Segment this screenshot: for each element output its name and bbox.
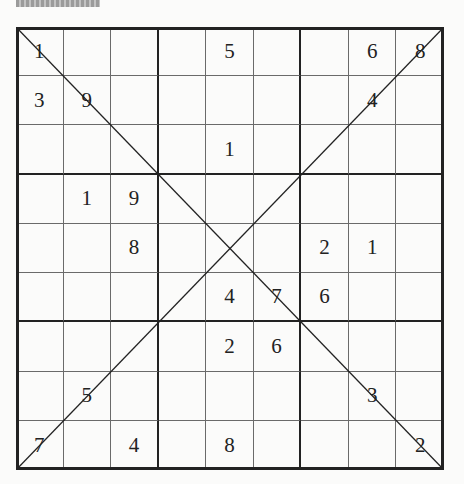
sudoku-cell-r8c1[interactable] bbox=[16, 372, 64, 421]
sudoku-cell-r1c2[interactable] bbox=[64, 27, 112, 76]
sudoku-cell-r7c1[interactable] bbox=[16, 322, 64, 371]
sudoku-cell-r1c6[interactable] bbox=[254, 27, 302, 76]
sudoku-cell-r8c3[interactable] bbox=[111, 372, 159, 421]
sudoku-board: 156839411982147626537482 bbox=[16, 27, 444, 470]
sudoku-cell-r9c7[interactable] bbox=[301, 421, 349, 470]
sudoku-cell-r7c8[interactable] bbox=[349, 322, 397, 371]
sudoku-cell-r9c6[interactable] bbox=[254, 421, 302, 470]
sudoku-cell-r6c6[interactable]: 7 bbox=[254, 273, 302, 322]
sudoku-cell-r4c8[interactable] bbox=[349, 175, 397, 224]
sudoku-cell-r5c8[interactable]: 1 bbox=[349, 224, 397, 273]
sudoku-cell-r7c5[interactable]: 2 bbox=[206, 322, 254, 371]
sudoku-cell-r2c2[interactable]: 9 bbox=[64, 76, 112, 125]
sudoku-cell-r6c9[interactable] bbox=[396, 273, 444, 322]
sudoku-cell-r3c4[interactable] bbox=[159, 125, 207, 174]
sudoku-cell-r9c9[interactable]: 2 bbox=[396, 421, 444, 470]
sudoku-cell-r8c2[interactable]: 5 bbox=[64, 372, 112, 421]
sudoku-cell-r5c2[interactable] bbox=[64, 224, 112, 273]
sudoku-cell-r3c2[interactable] bbox=[64, 125, 112, 174]
sudoku-cell-r6c1[interactable] bbox=[16, 273, 64, 322]
sudoku-cell-r2c4[interactable] bbox=[159, 76, 207, 125]
sudoku-cell-r3c5[interactable]: 1 bbox=[206, 125, 254, 174]
sudoku-cell-r1c5[interactable]: 5 bbox=[206, 27, 254, 76]
sudoku-cell-r9c4[interactable] bbox=[159, 421, 207, 470]
sudoku-cell-r4c1[interactable] bbox=[16, 175, 64, 224]
sudoku-cell-r2c1[interactable]: 3 bbox=[16, 76, 64, 125]
sudoku-cell-r8c8[interactable]: 3 bbox=[349, 372, 397, 421]
sudoku-cell-r4c7[interactable] bbox=[301, 175, 349, 224]
sudoku-cell-r5c3[interactable]: 8 bbox=[111, 224, 159, 273]
sudoku-cell-r9c5[interactable]: 8 bbox=[206, 421, 254, 470]
sudoku-cell-r4c2[interactable]: 1 bbox=[64, 175, 112, 224]
sudoku-cell-r6c2[interactable] bbox=[64, 273, 112, 322]
sudoku-cell-r4c6[interactable] bbox=[254, 175, 302, 224]
sudoku-cell-r4c5[interactable] bbox=[206, 175, 254, 224]
sudoku-cell-r3c1[interactable] bbox=[16, 125, 64, 174]
sudoku-cell-r2c5[interactable] bbox=[206, 76, 254, 125]
sudoku-cell-r6c8[interactable] bbox=[349, 273, 397, 322]
sudoku-cell-r8c5[interactable] bbox=[206, 372, 254, 421]
sudoku-cell-r1c9[interactable]: 8 bbox=[396, 27, 444, 76]
sudoku-cell-r8c7[interactable] bbox=[301, 372, 349, 421]
sudoku-cell-r5c9[interactable] bbox=[396, 224, 444, 273]
sudoku-cell-r3c9[interactable] bbox=[396, 125, 444, 174]
sudoku-cell-r9c3[interactable]: 4 bbox=[111, 421, 159, 470]
sudoku-cell-r3c6[interactable] bbox=[254, 125, 302, 174]
sudoku-cell-r5c6[interactable] bbox=[254, 224, 302, 273]
sudoku-cell-r1c3[interactable] bbox=[111, 27, 159, 76]
sudoku-cell-r1c8[interactable]: 6 bbox=[349, 27, 397, 76]
sudoku-cell-r2c6[interactable] bbox=[254, 76, 302, 125]
sudoku-cell-r8c4[interactable] bbox=[159, 372, 207, 421]
sudoku-cell-r8c6[interactable] bbox=[254, 372, 302, 421]
sudoku-cell-r4c3[interactable]: 9 bbox=[111, 175, 159, 224]
sudoku-cell-r3c3[interactable] bbox=[111, 125, 159, 174]
sudoku-cell-r3c8[interactable] bbox=[349, 125, 397, 174]
sudoku-cell-r4c4[interactable] bbox=[159, 175, 207, 224]
sudoku-cell-r5c5[interactable] bbox=[206, 224, 254, 273]
sudoku-cell-r7c3[interactable] bbox=[111, 322, 159, 371]
sudoku-cell-r7c6[interactable]: 6 bbox=[254, 322, 302, 371]
sudoku-grid: 156839411982147626537482 bbox=[16, 27, 444, 470]
sudoku-cell-r2c7[interactable] bbox=[301, 76, 349, 125]
sudoku-cell-r2c3[interactable] bbox=[111, 76, 159, 125]
sudoku-cell-r2c9[interactable] bbox=[396, 76, 444, 125]
sudoku-cell-r7c4[interactable] bbox=[159, 322, 207, 371]
sudoku-cell-r6c7[interactable]: 6 bbox=[301, 273, 349, 322]
sudoku-cell-r9c1[interactable]: 7 bbox=[16, 421, 64, 470]
sudoku-cell-r5c1[interactable] bbox=[16, 224, 64, 273]
sudoku-cell-r7c9[interactable] bbox=[396, 322, 444, 371]
sudoku-cell-r2c8[interactable]: 4 bbox=[349, 76, 397, 125]
sudoku-cell-r5c7[interactable]: 2 bbox=[301, 224, 349, 273]
sudoku-cell-r7c7[interactable] bbox=[301, 322, 349, 371]
sudoku-cell-r6c3[interactable] bbox=[111, 273, 159, 322]
sudoku-cell-r9c2[interactable] bbox=[64, 421, 112, 470]
sudoku-cell-r9c8[interactable] bbox=[349, 421, 397, 470]
sudoku-cell-r6c4[interactable] bbox=[159, 273, 207, 322]
sudoku-cell-r8c9[interactable] bbox=[396, 372, 444, 421]
sudoku-cell-r6c5[interactable]: 4 bbox=[206, 273, 254, 322]
sudoku-cell-r1c4[interactable] bbox=[159, 27, 207, 76]
sudoku-cell-r3c7[interactable] bbox=[301, 125, 349, 174]
sudoku-cell-r1c7[interactable] bbox=[301, 27, 349, 76]
sudoku-cell-r1c1[interactable]: 1 bbox=[16, 27, 64, 76]
cropped-header-text bbox=[16, 0, 100, 7]
sudoku-cell-r7c2[interactable] bbox=[64, 322, 112, 371]
sudoku-cell-r4c9[interactable] bbox=[396, 175, 444, 224]
sudoku-cell-r5c4[interactable] bbox=[159, 224, 207, 273]
